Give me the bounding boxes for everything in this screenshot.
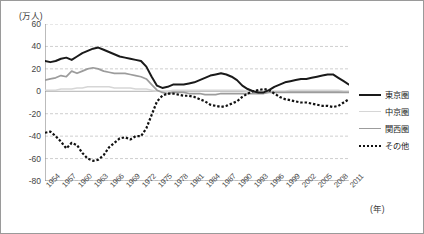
x-axis-tick-labels: 1954195719601963196619691972197519781981… — [45, 183, 355, 227]
gridlines — [45, 24, 349, 181]
series-line — [45, 48, 349, 93]
plot-area — [45, 24, 349, 181]
y-axis-tick-label: -40 — [11, 132, 41, 140]
y-axis-tick-label: -60 — [11, 155, 41, 163]
chart-svg — [45, 24, 349, 181]
y-axis-tick-label: 40 — [11, 42, 41, 50]
y-axis-tick-labels: 6040200-20-40-60-80 — [9, 24, 41, 181]
legend-item-2[interactable]: 中京圏 — [359, 102, 421, 119]
series-line — [45, 89, 349, 161]
legend-item-4[interactable]: その他 — [359, 136, 421, 153]
legend-swatch-icon — [359, 140, 381, 150]
series-lines — [45, 48, 349, 161]
legend-item-label: 関西圏 — [385, 122, 408, 134]
series-line — [45, 87, 349, 91]
x-axis-unit-label: (年) — [370, 202, 385, 214]
legend-swatch-icon — [359, 89, 381, 99]
axis-lines — [45, 24, 349, 181]
legend-swatch-icon — [359, 106, 381, 116]
y-axis-tick-label: 0 — [11, 87, 41, 95]
x-axis-tick-label: 2011 — [348, 172, 365, 189]
y-axis-tick-label: -20 — [11, 110, 41, 118]
chart-legend: 東京圏中京圏関西圏その他 — [359, 85, 421, 153]
legend-item-1[interactable]: 東京圏 — [359, 85, 421, 102]
legend-item-label: 東京圏 — [385, 88, 408, 100]
legend-item-3[interactable]: 関西圏 — [359, 119, 421, 136]
chart-figure: (万人) 6040200-20-40-60-80 195419571960196… — [0, 0, 424, 234]
legend-item-label: 中京圏 — [385, 105, 408, 117]
y-axis-tick-label: -80 — [11, 177, 41, 185]
legend-swatch-icon — [359, 123, 381, 133]
legend-item-label: その他 — [385, 139, 408, 151]
y-axis-tick-label: 60 — [11, 20, 41, 28]
y-axis-tick-label: 20 — [11, 65, 41, 73]
